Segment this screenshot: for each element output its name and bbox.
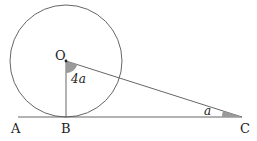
angle-at-C-shade bbox=[222, 111, 242, 117]
geometry-diagram: O A B C 4a a bbox=[0, 0, 257, 141]
label-B: B bbox=[61, 121, 71, 136]
line-OC bbox=[66, 61, 242, 117]
angle-label-C: a bbox=[204, 104, 211, 118]
label-A: A bbox=[10, 121, 21, 136]
angle-label-O: 4a bbox=[70, 72, 86, 86]
label-C: C bbox=[240, 121, 250, 136]
label-O: O bbox=[55, 48, 66, 63]
